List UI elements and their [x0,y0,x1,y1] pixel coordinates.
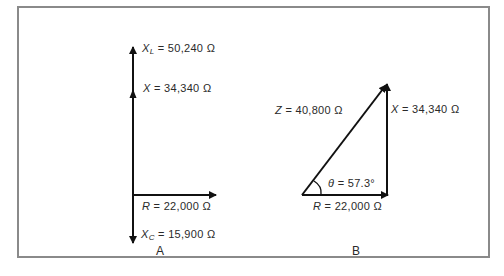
xl-label: XL = 50,240 Ω [142,42,215,56]
x-label-a: X = 34,340 Ω [143,82,211,94]
r-label-b: R = 22,000 Ω [313,200,382,212]
x-arrowhead [130,89,137,98]
xc-label: XC = 15,900 Ω [141,228,215,242]
theta-label: θ = 57.3° [328,177,375,189]
theta-arc [314,181,321,194]
r-label-a: R = 22,000 Ω [142,200,211,212]
phasor-diagrams [0,0,504,276]
x-label-b: X = 34,340 Ω [391,103,459,115]
panel-a-caption: A [156,244,164,258]
z-label: Z = 40,800 Ω [275,104,343,116]
panel-b-caption: B [352,244,360,258]
